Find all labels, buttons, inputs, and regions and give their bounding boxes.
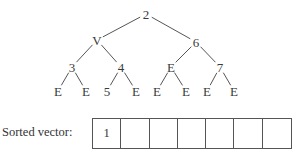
vector-cell (263, 119, 291, 148)
tree-node-empty: E (182, 85, 190, 98)
vector-cell (150, 119, 178, 148)
tree-edge (201, 47, 216, 62)
tree-node-empty: E (167, 61, 175, 74)
tree-node: 5 (104, 85, 111, 98)
tree-node: 2 (143, 8, 150, 21)
tree-node-empty: E (54, 85, 62, 98)
tree-node: 4 (118, 61, 125, 74)
vector-cell (121, 119, 149, 148)
tree-edge (101, 45, 116, 62)
tree-edge (152, 17, 190, 39)
sorted-vector-label: Sorted vector: (2, 125, 72, 140)
tree-node: V (92, 34, 101, 47)
vector-cell (178, 119, 206, 148)
vector-cell (234, 119, 262, 148)
tree-node: 6 (193, 36, 200, 49)
tree-edge (76, 45, 92, 62)
tree-node-empty: E (203, 85, 211, 98)
tree-edge (176, 47, 192, 63)
tree-edge (110, 73, 117, 86)
tree-node: 3 (69, 61, 76, 74)
tree-edge (160, 73, 167, 86)
tree-edge (61, 73, 68, 86)
tree-edge (103, 17, 140, 37)
sorted-vector: 1 (92, 118, 292, 149)
vector-cell (206, 119, 234, 148)
vector-cell: 1 (93, 119, 121, 148)
tree-node-empty: E (132, 85, 140, 98)
tree-edge (210, 73, 217, 85)
tree-node-empty: E (153, 85, 161, 98)
tree-node-empty: E (82, 85, 90, 98)
tree-node-empty: E (230, 85, 238, 98)
binary-tree-diagram (0, 0, 304, 110)
tree-node: 7 (217, 61, 224, 74)
